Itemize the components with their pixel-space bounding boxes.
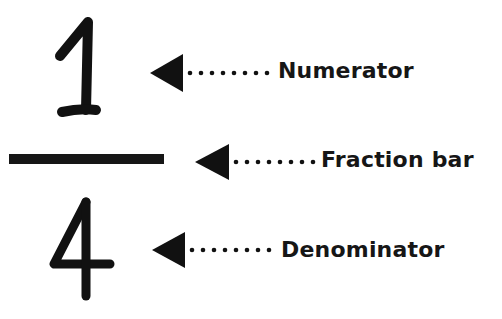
numerator-arrow (148, 52, 278, 94)
denominator-arrow (150, 230, 280, 270)
numerator-digit: 1 (50, 14, 110, 122)
fraction-bar-label: Fraction bar (321, 149, 474, 171)
fraction-bar (9, 154, 164, 164)
fraction-bar-arrow (193, 142, 321, 182)
numerator-label: Numerator (278, 60, 414, 82)
denominator-label: Denominator (281, 239, 445, 261)
denominator-digit: 4 (46, 196, 118, 306)
